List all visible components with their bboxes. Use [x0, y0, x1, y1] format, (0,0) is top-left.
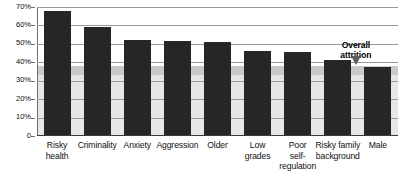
attrition-bar-chart: 70%60%50%40%30%20%10%0 RiskyhealthCrimin… [0, 0, 402, 185]
gridline [37, 25, 398, 26]
y-axis-tick: 50% [0, 44, 35, 45]
bar [244, 51, 271, 136]
y-axis-tick-label: 20% [16, 95, 31, 103]
y-axis-tick: 30% [0, 81, 35, 82]
y-axis-tick-mark [31, 136, 35, 137]
bar [284, 52, 311, 136]
y-axis-tick: 40% [0, 62, 35, 63]
y-axis-tick-mark [31, 99, 35, 100]
y-axis-tick-label: 60% [16, 21, 31, 29]
overall-attrition-pointer-icon [351, 56, 361, 65]
y-axis-tick-mark [31, 44, 35, 45]
x-axis-label-line: Male [352, 140, 402, 151]
y-axis-tick-label: 50% [16, 39, 31, 47]
y-axis-tick: 10% [0, 118, 35, 119]
bar [44, 11, 71, 136]
y-axis-tick-mark [31, 118, 35, 119]
y-axis-tick-mark [31, 25, 35, 26]
y-axis-tick-label: 70% [16, 3, 31, 11]
bar [324, 60, 351, 136]
y-axis-tick-mark [31, 62, 35, 63]
y-axis-tick-label: 40% [16, 58, 31, 66]
bar [124, 40, 151, 136]
x-axis-labels: RiskyhealthCriminalityAnxietyAggressionO… [37, 140, 398, 185]
bar [204, 42, 231, 136]
y-axis-tick: 20% [0, 99, 35, 100]
plot-area [37, 7, 398, 136]
y-axis-tick: 60% [0, 25, 35, 26]
bar [164, 41, 191, 136]
y-axis-tick-label: 30% [16, 76, 31, 84]
y-axis-tick: 70% [0, 7, 35, 8]
y-axis-tick-label: 10% [16, 113, 31, 121]
y-axis-tick-mark [31, 81, 35, 82]
x-axis-label-line: health [31, 151, 83, 162]
x-axis-label-line: regulation [272, 161, 324, 172]
bar [364, 67, 391, 136]
x-axis-line [37, 135, 398, 136]
annotation-line: Overall [316, 40, 396, 50]
gridline [37, 7, 398, 8]
x-axis-label-line: background [312, 151, 364, 162]
x-axis-label: Male [352, 140, 402, 151]
bar [84, 27, 111, 136]
y-axis-tick-mark [31, 7, 35, 8]
y-axis-tick: 0 [0, 136, 35, 137]
